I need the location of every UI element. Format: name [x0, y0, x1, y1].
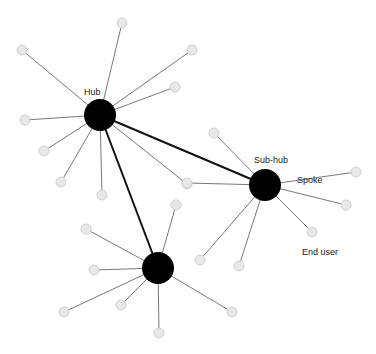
end-user-node	[17, 45, 27, 55]
end-user-node	[341, 200, 351, 210]
end-user-node	[187, 45, 197, 55]
end-user-node	[56, 177, 66, 187]
end-user-node	[351, 167, 361, 177]
end-user-node	[117, 18, 127, 28]
enduser-label: End user	[302, 247, 338, 257]
end-user-node	[59, 307, 69, 317]
end-user-node	[81, 224, 91, 234]
hub-label: Hub	[84, 87, 101, 97]
end-user-node	[195, 255, 205, 265]
spoke-label: Spoke	[297, 175, 323, 185]
subhub-node	[249, 169, 281, 201]
end-user-node	[307, 227, 317, 237]
end-user-node	[209, 128, 219, 138]
subhub-label: Sub-hub	[254, 155, 288, 165]
end-user-node	[116, 300, 126, 310]
end-user-node	[89, 265, 99, 275]
hub-and-spoke-diagram: Hub Sub-hub Spoke End user	[0, 0, 376, 354]
spoke-link	[100, 50, 192, 115]
end-user-node	[154, 328, 164, 338]
end-user-node	[227, 307, 237, 317]
end-user-node	[171, 200, 181, 210]
end-user-node	[39, 146, 49, 156]
end-user-node	[97, 190, 107, 200]
hub3-node	[142, 252, 174, 284]
hub-node	[84, 99, 116, 131]
end-user-node	[182, 178, 192, 188]
end-user-node	[20, 115, 30, 125]
end-user-node	[234, 261, 244, 271]
end-user-node	[170, 82, 180, 92]
trunk-link	[100, 115, 265, 185]
